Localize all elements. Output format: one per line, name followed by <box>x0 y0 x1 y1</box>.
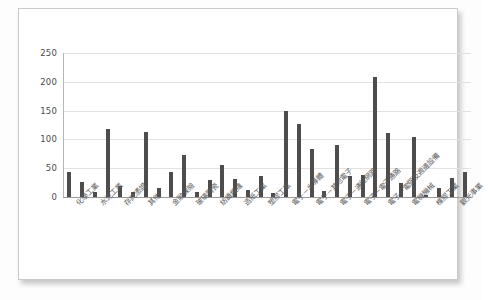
y-axis-tick-label: 0 <box>23 192 57 202</box>
y-axis-tick-label: 150 <box>23 106 57 116</box>
bar <box>361 175 365 197</box>
bar <box>93 192 97 197</box>
bar-series <box>63 53 471 197</box>
y-axis-tick-label: 250 <box>23 48 57 58</box>
bar <box>348 176 352 197</box>
bar <box>271 193 275 197</box>
chart-sheet: 050100150200250 化學工業水泥工業存託憑證其他金融保險玻璃陶瓷紡織… <box>18 8 458 280</box>
y-axis-tick-label: 100 <box>23 134 57 144</box>
bar <box>67 172 71 197</box>
bar <box>144 132 148 197</box>
bar <box>399 183 403 197</box>
bar <box>246 190 250 197</box>
y-axis-tick-label: 50 <box>23 163 57 173</box>
bar <box>131 192 135 197</box>
bar <box>463 172 467 197</box>
bar <box>424 195 428 197</box>
bar <box>80 182 84 197</box>
bar <box>169 172 173 197</box>
bar <box>335 145 339 197</box>
bar <box>373 77 377 197</box>
bar <box>437 188 441 197</box>
bar <box>220 165 224 197</box>
y-axis-tick-label: 200 <box>23 77 57 87</box>
bar <box>412 137 416 197</box>
bar <box>118 186 122 198</box>
bar <box>195 192 199 197</box>
bar <box>284 111 288 197</box>
bar <box>259 176 263 197</box>
bar <box>310 149 314 197</box>
x-axis-baseline <box>63 197 471 198</box>
bar <box>208 180 212 197</box>
bar <box>157 188 161 197</box>
bar <box>322 191 326 197</box>
bar <box>297 124 301 197</box>
bar <box>386 133 390 198</box>
bar <box>450 178 454 197</box>
bar <box>106 129 110 197</box>
bar <box>182 155 186 197</box>
bar <box>233 179 237 197</box>
